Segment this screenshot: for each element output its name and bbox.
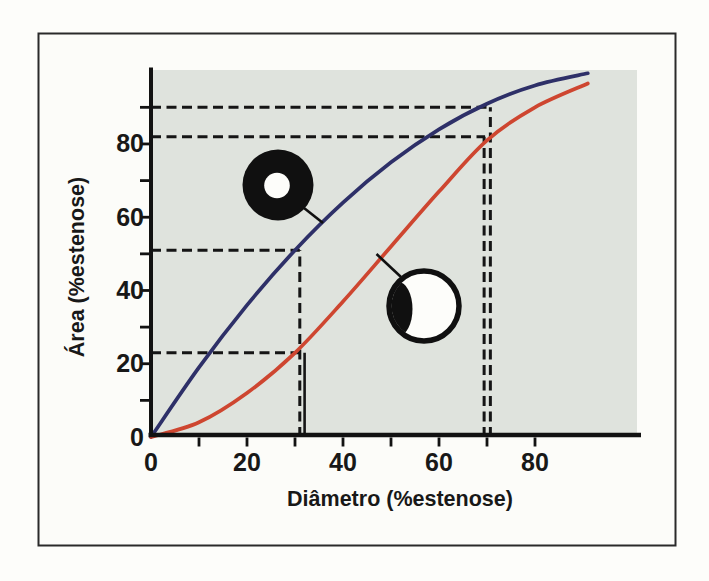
x-axis-title: Diâmetro (%estenose) — [287, 487, 513, 511]
eccentric-stenosis-icon — [385, 271, 460, 341]
x-tick-label: 80 — [521, 448, 549, 476]
y-tick-label: 40 — [116, 276, 144, 304]
y-tick-label: 60 — [116, 203, 144, 231]
y-tick-label: 0 — [130, 423, 144, 451]
concentric-lumen — [264, 173, 290, 199]
x-tick-label: 60 — [425, 448, 453, 476]
x-tick-label: 0 — [144, 448, 158, 476]
y-axis-title: Área (%estenose) — [64, 177, 89, 357]
x-tick-label: 20 — [233, 448, 261, 476]
y-tick-label: 80 — [116, 129, 144, 157]
y-tick-label: 20 — [116, 349, 144, 377]
plot-background — [152, 70, 637, 434]
concentric-stenosis-icon — [243, 150, 314, 221]
stenosis-area-diameter-chart: 020406080020406080 Área (%estenose) Diâm… — [0, 0, 709, 581]
x-tick-label: 40 — [329, 448, 357, 476]
